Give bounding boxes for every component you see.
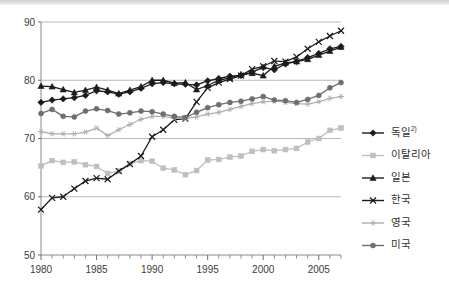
series-marker-이탈리아-2002 [283, 147, 288, 152]
legend-marker-diamond-icon [370, 130, 376, 136]
series-marker-영국-1983 [71, 131, 77, 136]
series-marker-미국-1984 [83, 109, 88, 114]
series-marker-영국-1997 [227, 107, 233, 112]
series-marker-이탈리아-2003 [294, 146, 299, 151]
series-marker-미국-1998 [239, 99, 244, 104]
series-marker-미국-1983 [72, 114, 77, 119]
series-marker-미국-2006 [327, 85, 332, 90]
series-marker-한국-2006 [327, 33, 333, 39]
y-tick-label-50: 50 [24, 250, 36, 261]
series-marker-미국-2005 [316, 93, 321, 98]
series-marker-미국-1985 [94, 106, 99, 111]
legend-item-미국[interactable]: 미국 [362, 238, 411, 250]
series-marker-이탈리아-1980 [39, 163, 44, 168]
series-marker-미국-1989 [139, 109, 144, 114]
line-chart-figure: 5060708090 198019851990199520002005 독일2)… [0, 5, 449, 290]
series-marker-이탈리아-2005 [316, 136, 321, 141]
series-marker-영국-1989 [138, 117, 144, 122]
series-marker-이탈리아-1991 [161, 166, 166, 171]
series-marker-미국-1992 [172, 114, 177, 119]
series-marker-한국-1994 [194, 99, 200, 105]
series-marker-미국-1996 [216, 102, 221, 107]
legend-item-한국[interactable]: 한국 [362, 193, 411, 205]
x-tick-label-2000: 2000 [252, 264, 275, 275]
series-marker-미국-2004 [305, 97, 310, 102]
series-marker-영국-2000 [260, 99, 266, 104]
legend-item-일본[interactable]: 일본 [362, 171, 411, 183]
series-marker-영국-1988 [127, 122, 133, 127]
series-marker-이탈리아-1990 [150, 159, 155, 164]
legend-marker-asterisk-icon [370, 220, 376, 225]
series-marker-이탈리아-1984 [83, 162, 88, 167]
series-marker-미국-2001 [272, 98, 277, 103]
series-marker-한국-2004 [305, 46, 311, 52]
series-marker-미국-1993 [183, 115, 188, 120]
series-marker-이탈리아-1995 [205, 158, 210, 163]
series-marker-영국-1995 [205, 111, 211, 116]
series-marker-이탈리아-2006 [327, 128, 332, 133]
legend-item-독일[interactable]: 독일2) [362, 125, 417, 138]
series-marker-이탈리아-2004 [305, 140, 310, 145]
series-marker-이탈리아-1989 [139, 158, 144, 163]
series-marker-미국-1997 [227, 100, 232, 105]
series-marker-영국-1982 [60, 131, 66, 136]
x-tick-label-1985: 1985 [85, 264, 108, 275]
series-marker-미국-1999 [250, 96, 255, 101]
series-marker-이탈리아-1985 [94, 164, 99, 169]
legend-label-일본: 일본 [391, 171, 411, 183]
x-tick-label-1990: 1990 [141, 264, 164, 275]
legend-item-영국[interactable]: 영국 [362, 216, 411, 228]
series-marker-미국-1986 [105, 108, 110, 113]
y-tick-label-70: 70 [24, 133, 36, 144]
series-marker-영국-2007 [338, 94, 344, 99]
series-marker-이탈리아-1982 [61, 160, 66, 165]
series-marker-미국-2003 [294, 100, 299, 105]
y-axis-tick-labels: 5060708090 [24, 17, 36, 261]
y-tick-label-60: 60 [24, 191, 36, 202]
series-marker-독일-1983 [71, 95, 77, 101]
x-tick-label-2005: 2005 [308, 264, 331, 275]
x-tick-label-1995: 1995 [197, 264, 220, 275]
series-marker-이탈리아-1996 [216, 157, 221, 162]
series-line-이탈리아 [41, 128, 341, 175]
series-marker-일본-1985 [93, 84, 99, 90]
series-marker-미국-1981 [50, 107, 55, 112]
series-marker-이탈리아-1986 [105, 171, 110, 176]
series-marker-미국-2002 [283, 98, 288, 103]
series-marker-독일-1981 [49, 97, 55, 103]
series-marker-한국-1991 [160, 127, 166, 133]
series-marker-영국-1981 [49, 131, 55, 136]
data-series-group [38, 28, 344, 213]
legend-superscript: 2) [411, 125, 417, 133]
series-marker-독일-1984 [82, 92, 88, 98]
series-한국 [38, 28, 344, 213]
series-marker-미국-1980 [39, 111, 44, 116]
legend-item-이탈리아[interactable]: 이탈리아 [362, 148, 431, 160]
x-axis-tick-labels: 198019851990199520002005 [30, 264, 330, 275]
legend-marker-square-icon [371, 153, 376, 158]
series-marker-이탈리아-1999 [250, 149, 255, 154]
legend-marker-circle-icon [371, 243, 376, 248]
series-marker-한국-2007 [338, 28, 344, 34]
series-marker-영국-1998 [238, 104, 244, 109]
series-marker-영국-1996 [216, 110, 222, 115]
series-marker-독일-1980 [38, 99, 44, 105]
series-marker-이탈리아-1981 [50, 158, 55, 163]
series-marker-영국-2004 [305, 102, 311, 107]
series-marker-한국-1983 [71, 186, 77, 192]
series-marker-이탈리아-2000 [261, 147, 266, 152]
series-marker-영국-2006 [327, 96, 333, 101]
series-marker-이탈리아-1997 [227, 155, 232, 160]
series-marker-이탈리아-1992 [172, 168, 177, 173]
series-일본 [38, 44, 344, 96]
series-marker-미국-1987 [116, 112, 121, 117]
series-marker-미국-1994 [194, 110, 199, 115]
chart-canvas: 5060708090 198019851990199520002005 독일2)… [0, 5, 449, 290]
legend-label-독일: 독일2) [391, 125, 417, 138]
x-tick-label-1980: 1980 [30, 264, 53, 275]
series-marker-이탈리아-2007 [339, 126, 344, 131]
series-marker-영국-1999 [249, 101, 255, 106]
series-marker-미국-2007 [339, 80, 344, 85]
series-marker-영국-2005 [316, 99, 322, 104]
legend-label-영국: 영국 [391, 216, 411, 228]
